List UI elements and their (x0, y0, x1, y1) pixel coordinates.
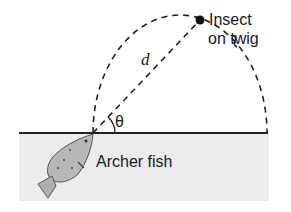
distance-line (93, 20, 200, 133)
twig-label: on twig (208, 31, 259, 47)
angle-arc (108, 117, 115, 133)
distance-label: d (141, 52, 150, 68)
insect-label: Insect (209, 12, 252, 28)
angle-label: θ (115, 114, 124, 130)
fish-label: Archer fish (96, 154, 172, 170)
insect-dot (196, 16, 205, 25)
